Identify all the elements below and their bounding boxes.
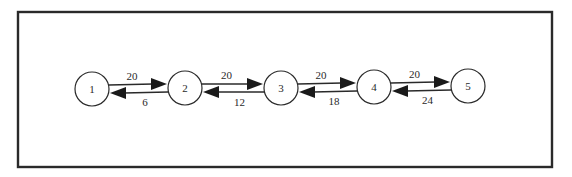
node-1: 1 xyxy=(75,72,109,106)
node-label: 1 xyxy=(89,83,95,95)
edge-weight-label: 18 xyxy=(329,95,341,107)
node-label: 2 xyxy=(182,82,188,94)
edge-weight-label: 20 xyxy=(221,69,233,81)
node-label: 5 xyxy=(465,80,471,92)
edge-weight-label: 12 xyxy=(234,96,245,108)
edge-weight-label: 6 xyxy=(142,96,148,108)
edge-weight-label: 24 xyxy=(422,94,434,106)
node-label: 3 xyxy=(278,82,284,94)
node-4: 4 xyxy=(357,70,391,104)
node-3: 3 xyxy=(264,71,298,105)
node-label: 4 xyxy=(371,81,377,93)
edge-weight-label: 20 xyxy=(316,69,328,81)
diagram-canvas: 202020206121824 12345 xyxy=(0,0,572,177)
edge-weight-label: 20 xyxy=(127,70,139,82)
edge-weight-label: 20 xyxy=(409,68,421,80)
node-2: 2 xyxy=(168,71,202,105)
node-5: 5 xyxy=(451,69,485,103)
